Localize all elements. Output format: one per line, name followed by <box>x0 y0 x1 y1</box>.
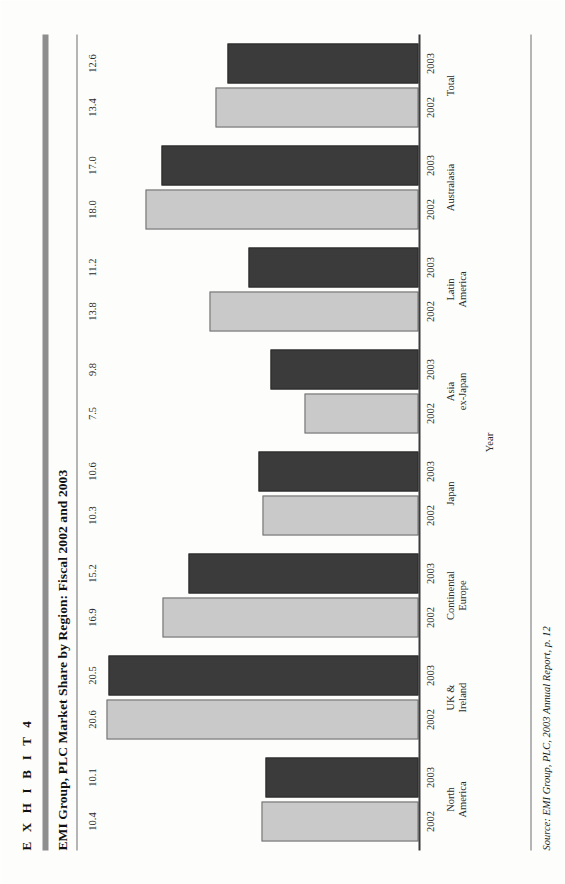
year-tick-labels: 2002200320022003200220032002200320022003… <box>424 34 442 850</box>
bar-slot: 15.2 <box>100 553 418 593</box>
region-label-line2: Ireland <box>456 646 468 748</box>
tick-label-2002: 2002 <box>424 493 442 537</box>
region-label-line2: Europe <box>456 544 468 646</box>
region-label-north-america: NorthAmerica <box>444 748 476 850</box>
bar-slot: 13.8 <box>100 291 418 331</box>
bar-japan-2003 <box>258 451 419 491</box>
bar-value-label: 17.0 <box>86 156 97 174</box>
region-label-continental-europe: ContinentalEurope <box>444 544 476 646</box>
category-axis-line <box>418 34 420 850</box>
tick-group: 20022003 <box>424 34 442 136</box>
bar-value-label: 11.2 <box>86 258 97 276</box>
bar-continental-europe-2002 <box>162 597 418 637</box>
bar-slot: 18.0 <box>100 189 418 229</box>
tick-label-2002: 2002 <box>424 187 442 231</box>
bar-chart: 10.410.120.620.516.915.210.310.67.59.813… <box>86 34 478 850</box>
bar-slot: 10.3 <box>100 495 418 535</box>
tick-label-2003: 2003 <box>424 449 442 493</box>
bar-value-label: 13.4 <box>86 98 97 116</box>
bar-slot: 17.0 <box>100 145 418 185</box>
source-lead: Source: <box>540 818 551 850</box>
region-label-line2: ex-Japan <box>456 340 468 442</box>
tick-label-2002: 2002 <box>424 697 442 741</box>
tick-label-2003: 2003 <box>424 41 442 85</box>
bar-value-label: 20.6 <box>86 710 97 728</box>
bar-north-america-2002 <box>261 801 418 841</box>
source-note: Source: EMI Group, PLC, 2003 Annual Repo… <box>540 626 551 850</box>
bar-slot: 10.6 <box>100 451 418 491</box>
bar-slot: 11.2 <box>100 247 418 287</box>
bar-asia-ex-japan-2003 <box>270 349 418 389</box>
tick-label-2003: 2003 <box>424 551 442 595</box>
tick-group: 20022003 <box>424 238 442 340</box>
tick-label-2003: 2003 <box>424 653 442 697</box>
bar-australasia-2003 <box>161 145 418 185</box>
region-label-line1: UK & <box>444 646 456 748</box>
region-label-latin-america: LatinAmerica <box>444 238 476 340</box>
bar-continental-europe-2003 <box>188 553 418 593</box>
region-label-line2: America <box>456 748 468 850</box>
region-label-japan: Japan <box>444 442 476 544</box>
region-labels: NorthAmericaUK &IrelandContinentalEurope… <box>444 34 476 850</box>
region-label-australasia: Australasia <box>444 136 476 238</box>
bar-slot: 13.4 <box>100 87 418 127</box>
bar-group: 18.017.0 <box>100 136 418 238</box>
page-title: EMI Group, PLC Market Share by Region: F… <box>54 469 70 850</box>
region-label-line1: Continental <box>444 544 456 646</box>
bar-asia-ex-japan-2002 <box>304 393 418 433</box>
tick-group: 20022003 <box>424 748 442 850</box>
region-label-line1: Latin <box>444 238 456 340</box>
bar-latin-america-2003 <box>248 247 418 287</box>
tick-label-2002: 2002 <box>424 391 442 435</box>
tick-label-2002: 2002 <box>424 799 442 843</box>
tick-group: 20022003 <box>424 340 442 442</box>
tick-group: 20022003 <box>424 646 442 748</box>
tick-label-2002: 2002 <box>424 289 442 333</box>
region-label-asia-ex-japan: Asiaex-Japan <box>444 340 476 442</box>
bar-slot: 20.5 <box>100 655 418 695</box>
bar-group: 20.620.5 <box>100 646 418 748</box>
bar-slot: 20.6 <box>100 699 418 739</box>
axis-title-year: Year <box>483 34 494 850</box>
bar-group: 13.412.6 <box>100 34 418 136</box>
region-label-uk-ireland: UK &Ireland <box>444 646 476 748</box>
bar-total-2002 <box>215 87 418 127</box>
bar-group: 10.310.6 <box>100 442 418 544</box>
bar-value-label: 10.4 <box>86 812 97 830</box>
bar-australasia-2002 <box>145 189 418 229</box>
bar-value-label: 13.8 <box>86 302 97 320</box>
tick-label-2003: 2003 <box>424 143 442 187</box>
tick-label-2003: 2003 <box>424 347 442 391</box>
region-label-line2: America <box>456 238 468 340</box>
tick-label-2003: 2003 <box>424 755 442 799</box>
bar-slot: 10.1 <box>100 757 418 797</box>
tick-label-2002: 2002 <box>424 85 442 129</box>
bar-uk-ireland-2002 <box>106 699 418 739</box>
tick-group: 20022003 <box>424 544 442 646</box>
bar-slot: 16.9 <box>100 597 418 637</box>
region-label-line1: Total <box>444 34 456 136</box>
bar-slot: 10.4 <box>100 801 418 841</box>
bar-value-label: 10.1 <box>86 768 97 786</box>
region-label-line1: Japan <box>444 442 456 544</box>
tick-group: 20022003 <box>424 136 442 238</box>
bar-group: 13.811.2 <box>100 238 418 340</box>
header-rule-thin <box>76 34 77 850</box>
bar-north-america-2003 <box>265 757 418 797</box>
bar-value-label: 10.3 <box>86 506 97 524</box>
region-label-line1: Asia <box>444 340 456 442</box>
bar-latin-america-2002 <box>209 291 418 331</box>
region-label-line1: North <box>444 748 456 850</box>
bar-total-2003 <box>227 43 418 83</box>
bar-uk-ireland-2003 <box>108 655 418 695</box>
bar-value-label: 16.9 <box>86 608 97 626</box>
bar-series-container: 10.410.120.620.516.915.210.310.67.59.813… <box>100 34 418 850</box>
tick-group: 20022003 <box>424 442 442 544</box>
exhibit-page: E X H I B I T 4 EMI Group, PLC Market Sh… <box>0 0 565 884</box>
bar-value-label: 15.2 <box>86 564 97 582</box>
bar-value-label: 20.5 <box>86 666 97 684</box>
bar-value-label: 9.8 <box>86 362 97 375</box>
bar-slot: 9.8 <box>100 349 418 389</box>
tick-label-2003: 2003 <box>424 245 442 289</box>
bar-value-label: 7.5 <box>86 406 97 419</box>
